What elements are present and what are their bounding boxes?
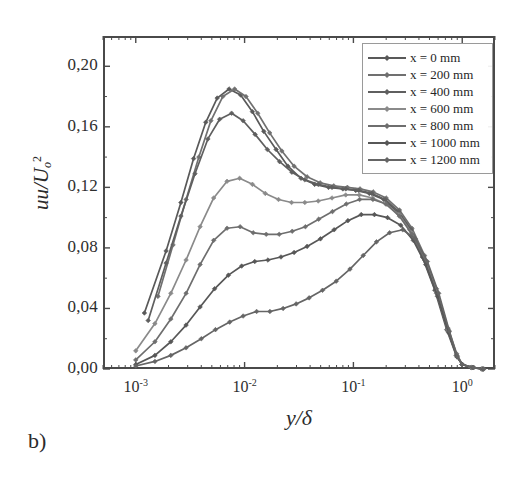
y-tick-label-1: 0,04: [40, 297, 98, 317]
legend-item-4[interactable]: x = 800 mm: [367, 117, 488, 134]
legend-line-marker-icon: [367, 102, 407, 116]
legend-line-marker-icon: [367, 153, 407, 167]
legend-line-marker-icon: [367, 51, 407, 65]
legend-line-marker-icon: [367, 68, 407, 82]
x-tick-label-1: 10-2: [232, 377, 256, 396]
y-axis-title-sub: o: [40, 162, 54, 168]
legend: x = 0 mmx = 200 mmx = 400 mmx = 600 mmx …: [362, 43, 493, 174]
y-axis-title-sup: 2: [30, 156, 44, 162]
legend-label-4: x = 800 mm: [407, 118, 473, 134]
legend-item-5[interactable]: x = 1000 mm: [367, 134, 488, 151]
legend-item-2[interactable]: x = 400 mm: [367, 83, 488, 100]
legend-label-1: x = 200 mm: [407, 67, 473, 83]
legend-line-marker-icon: [367, 85, 407, 99]
legend-label-3: x = 600 mm: [407, 101, 473, 117]
legend-line-marker-icon: [367, 136, 407, 150]
panel-caption: b): [28, 428, 46, 454]
y-axis-title-main: uu/U: [29, 168, 53, 210]
legend-label-6: x = 1200 mm: [407, 152, 480, 168]
legend-label-5: x = 1000 mm: [407, 135, 480, 151]
x-tick-label-2: 10-1: [341, 377, 365, 396]
legend-label-0: x = 0 mm: [407, 50, 460, 66]
series-6: [133, 227, 486, 371]
x-tick-label-0: 10-3: [124, 377, 148, 396]
x-axis-title: y/δ: [103, 405, 495, 431]
legend-line-marker-icon: [367, 119, 407, 133]
legend-item-3[interactable]: x = 600 mm: [367, 100, 488, 117]
y-axis-title: uu/Uo2: [29, 123, 55, 243]
figure-panel-b: 0,000,040,080,120,160,20 10-310-210-1100…: [0, 0, 519, 477]
legend-item-6[interactable]: x = 1200 mm: [367, 151, 488, 168]
legend-label-2: x = 400 mm: [407, 84, 473, 100]
legend-item-1[interactable]: x = 200 mm: [367, 66, 488, 83]
x-tick-label-3: 100: [452, 377, 473, 396]
y-tick-label-0: 0,00: [40, 358, 98, 378]
legend-item-0[interactable]: x = 0 mm: [367, 49, 488, 66]
y-tick-label-5: 0,20: [40, 55, 98, 75]
